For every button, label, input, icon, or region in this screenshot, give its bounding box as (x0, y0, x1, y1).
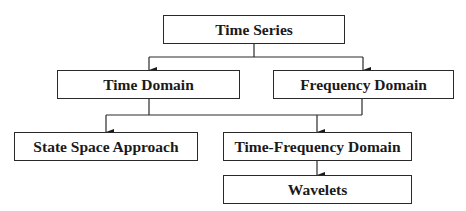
node-label: Time Domain (103, 76, 194, 94)
node-time-domain: Time Domain (57, 70, 240, 99)
node-label: Time Series (215, 21, 293, 39)
node-frequency-domain: Frequency Domain (273, 70, 454, 99)
node-label: Frequency Domain (300, 76, 427, 94)
node-time-frequency-domain: Time-Frequency Domain (223, 132, 412, 161)
node-state-space-approach: State Space Approach (14, 132, 198, 161)
node-label: Wavelets (288, 181, 347, 199)
node-wavelets: Wavelets (223, 175, 412, 204)
node-time-series: Time Series (163, 15, 345, 44)
node-label: Time-Frequency Domain (234, 138, 400, 156)
node-label: State Space Approach (33, 138, 178, 156)
